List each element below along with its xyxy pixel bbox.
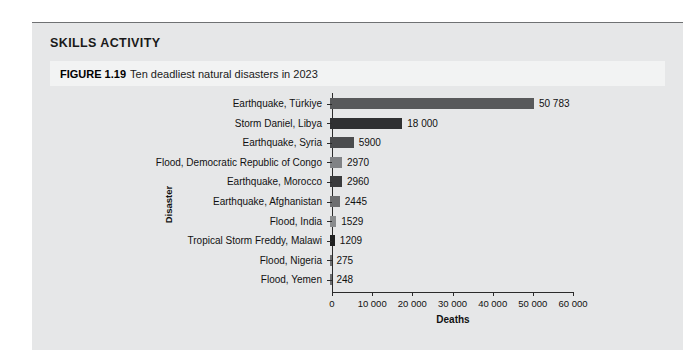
plot-region: Deaths Earthquake, Türkiye50 783Storm Da… <box>32 93 683 343</box>
bar-category-label: Earthquake, Syria <box>132 137 330 148</box>
x-axis-tick-label: 50 000 <box>518 298 547 309</box>
bar-row: Earthquake, Morocco2960 <box>132 172 652 191</box>
y-axis-tick <box>327 260 332 261</box>
bar-row: Flood, Democratic Republic of Congo2970 <box>132 153 652 172</box>
x-axis-tick-label: 40 000 <box>478 298 507 309</box>
bar-category-label: Tropical Storm Freddy, Malawi <box>132 235 330 246</box>
x-axis-tick <box>372 292 373 296</box>
y-axis-tick <box>327 123 332 124</box>
bar-container: 50 783 <box>330 94 652 113</box>
bar <box>330 137 354 148</box>
bar-row: Tropical Storm Freddy, Malawi1209 <box>132 231 652 250</box>
x-axis-tick-label: 0 <box>329 298 334 309</box>
bar-value-label: 2445 <box>345 196 367 207</box>
y-axis-tick <box>327 104 332 105</box>
bar <box>330 118 402 129</box>
figure-number: FIGURE 1.19 <box>60 68 126 80</box>
bar-row: Flood, Nigeria275 <box>132 251 652 270</box>
bar-value-label: 5900 <box>359 137 381 148</box>
bar-chart: Disaster Deaths Earthquake, Türkiye50 78… <box>32 93 683 343</box>
x-axis-tick-label: 60 000 <box>558 298 587 309</box>
bar-container: 1529 <box>330 212 652 231</box>
bar-value-label: 2970 <box>347 157 369 168</box>
bar-container: 5900 <box>330 133 652 152</box>
bar-container: 275 <box>330 251 652 270</box>
bar-value-label: 50 783 <box>539 98 570 109</box>
bar-container: 2970 <box>330 153 652 172</box>
bar-category-label: Storm Daniel, Libya <box>132 118 330 129</box>
x-axis-tick-label: 30 000 <box>438 298 467 309</box>
bar-value-label: 2960 <box>347 176 369 187</box>
bar-row: Flood, India1529 <box>132 212 652 231</box>
x-axis-tick-label: 20 000 <box>398 298 427 309</box>
figure-caption-text: Ten deadliest natural disasters in 2023 <box>130 68 318 80</box>
y-axis-tick <box>327 221 332 222</box>
y-axis-tick <box>327 162 332 163</box>
x-axis-tick <box>453 292 454 296</box>
bar-container: 2445 <box>330 192 652 211</box>
y-axis-tick <box>327 280 332 281</box>
bar-row: Earthquake, Syria5900 <box>132 133 652 152</box>
x-axis-tick <box>573 292 574 296</box>
bar-row: Storm Daniel, Libya18 000 <box>132 114 652 133</box>
bar <box>330 98 534 109</box>
bar-category-label: Flood, Nigeria <box>132 255 330 266</box>
x-axis-tick <box>533 292 534 296</box>
skills-activity-panel: SKILLS ACTIVITY FIGURE 1.19 Ten deadlies… <box>32 22 683 350</box>
section-title: SKILLS ACTIVITY <box>50 36 160 50</box>
y-axis-tick <box>327 241 332 242</box>
bar-value-label: 1209 <box>340 235 362 246</box>
bar-category-label: Flood, Democratic Republic of Congo <box>132 157 330 168</box>
x-axis-title: Deaths <box>332 314 574 325</box>
bar-value-label: 1529 <box>341 216 363 227</box>
figure-caption: FIGURE 1.19 Ten deadliest natural disast… <box>50 61 665 86</box>
bar-category-label: Earthquake, Morocco <box>132 176 330 187</box>
bar-category-label: Earthquake, Afghanistan <box>132 196 330 207</box>
y-axis-tick <box>327 143 332 144</box>
bar-value-label: 275 <box>337 255 354 266</box>
bar-value-label: 18 000 <box>407 118 438 129</box>
x-axis-tick <box>493 292 494 296</box>
bar-row: Flood, Yemen248 <box>132 270 652 289</box>
bar-row: Earthquake, Afghanistan2445 <box>132 192 652 211</box>
bar-container: 1209 <box>330 231 652 250</box>
bar-row: Earthquake, Türkiye50 783 <box>132 94 652 113</box>
bar-container: 18 000 <box>330 114 652 133</box>
bar-container: 248 <box>330 270 652 289</box>
bar-category-label: Flood, Yemen <box>132 274 330 285</box>
bar-category-label: Earthquake, Türkiye <box>132 98 330 109</box>
bar-category-label: Flood, India <box>132 216 330 227</box>
x-axis-tick-label: 10 000 <box>358 298 387 309</box>
x-axis-tick <box>412 292 413 296</box>
bar-value-label: 248 <box>337 274 354 285</box>
bar-container: 2960 <box>330 172 652 191</box>
y-axis-tick <box>327 182 332 183</box>
y-axis-tick <box>327 202 332 203</box>
x-axis-tick <box>332 292 333 296</box>
